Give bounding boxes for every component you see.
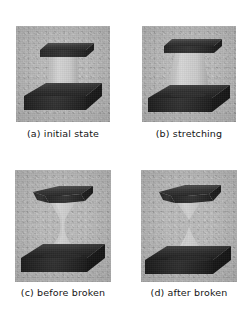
panel-c-micrograph: [15, 170, 111, 282]
upper-plate-front: [40, 50, 86, 57]
panel-d-caption: (d) after broken: [151, 288, 228, 298]
lower-plate-front: [21, 258, 87, 272]
panel-d: (d) after broken: [126, 158, 252, 316]
panel-b-caption: (b) stretching: [156, 129, 222, 139]
panel-c-illustration: [15, 170, 111, 282]
panel-d-illustration: [141, 170, 237, 282]
panel-c: (c) before broken: [0, 158, 126, 316]
panel-c-caption: (c) before broken: [21, 288, 105, 298]
lower-plate-front: [145, 260, 213, 274]
panel-a-illustration: [16, 26, 110, 122]
lower-plate-front: [24, 96, 86, 110]
upper-plate-front: [164, 46, 214, 53]
panel-grid: (a) initial state: [0, 0, 252, 316]
upper-plate-top: [40, 43, 94, 50]
figure-root: (a) initial state: [0, 0, 252, 316]
panel-a: (a) initial state: [0, 0, 126, 158]
upper-plate-top: [164, 39, 222, 46]
panel-d-micrograph: [141, 170, 237, 282]
panel-a-caption: (a) initial state: [27, 129, 99, 139]
panel-b-illustration: [142, 26, 236, 122]
panel-b-micrograph: [142, 26, 236, 122]
panel-b: (b) stretching: [126, 0, 252, 158]
panel-a-micrograph: [16, 26, 110, 122]
lower-plate-front: [148, 98, 212, 112]
